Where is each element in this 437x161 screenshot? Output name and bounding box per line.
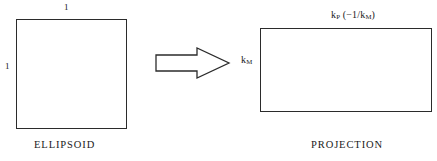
projection-rectangle (260, 28, 432, 112)
ellipsoid-to-projection-diagram: 1 1 ELLIPSOID kP (−1/kM) kM PROJECTION (0, 0, 437, 161)
ellipsoid-left-dimension-label: 1 (5, 62, 10, 71)
ellipsoid-caption: ELLIPSOID (34, 139, 95, 150)
block-arrow-right-icon (155, 44, 231, 82)
projection-top-label-open-paren: (−1/k (340, 9, 365, 20)
projection-top-dimension-label: kP (−1/kM) (331, 10, 375, 21)
projection-caption: PROJECTION (311, 139, 383, 150)
ellipsoid-square (16, 19, 127, 129)
projection-left-dimension-label: kM (241, 55, 252, 66)
projection-top-label-close-paren: ) (371, 9, 375, 20)
projection-left-label-subscript-m: M (246, 58, 252, 65)
ellipsoid-top-dimension-label: 1 (64, 3, 69, 12)
